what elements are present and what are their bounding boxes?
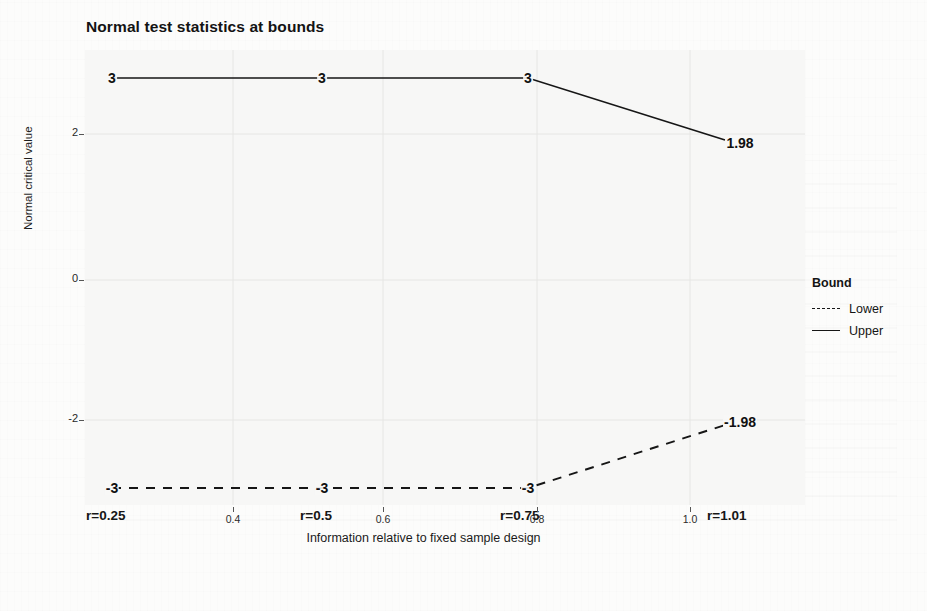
x-point-label-3: r=1.01 — [707, 508, 746, 523]
chart-title: Normal test statistics at bounds — [86, 18, 324, 36]
y-axis-label: Normal critical value — [22, 126, 34, 230]
point-label-upper-3: 1.98 — [725, 136, 754, 150]
y-tick-mark-minus2 — [79, 420, 84, 421]
series-line-lower — [112, 425, 725, 488]
legend-label-lower: Lower — [849, 302, 883, 316]
x-tick-mark-0 — [233, 507, 234, 512]
x-tick-1: 0.6 — [376, 513, 391, 525]
x-point-label-1: r=0.5 — [300, 508, 332, 523]
point-label-upper-1: 3 — [317, 71, 327, 85]
x-tick-3: 1.0 — [683, 513, 698, 525]
x-tick-0: 0.4 — [226, 513, 241, 525]
chart-page: Normal test statistics at bounds Normal … — [0, 0, 927, 611]
y-tick-mark-0 — [79, 280, 84, 281]
point-label-upper-2: 3 — [523, 71, 533, 85]
plot-panel: 3 3 3 1.98 -3 -3 -3 -1.98 — [85, 50, 805, 505]
x-tick-2: 0.8 — [530, 513, 545, 525]
legend-label-upper: Upper — [849, 324, 883, 338]
point-label-lower-0: -3 — [105, 481, 119, 495]
point-label-lower-3: -1.98 — [723, 415, 757, 429]
legend-item-upper[interactable]: Upper — [812, 321, 922, 340]
legend-swatch-dashed-line-icon — [812, 303, 840, 315]
legend-swatch-solid-line-icon — [812, 325, 840, 337]
x-tick-mark-1 — [383, 507, 384, 512]
plot-svg — [85, 50, 805, 505]
grid-lines — [85, 50, 805, 505]
legend-title: Bound — [812, 276, 922, 290]
x-tick-mark-3 — [690, 507, 691, 512]
x-point-label-0: r=0.25 — [86, 508, 125, 523]
legend: Bound Lower Upper — [812, 276, 922, 343]
series-line-upper — [112, 78, 725, 140]
point-label-lower-2: -3 — [521, 481, 535, 495]
x-tick-mark-2 — [537, 507, 538, 512]
y-tick-mark-2 — [79, 134, 84, 135]
point-label-lower-1: -3 — [315, 481, 329, 495]
legend-item-lower[interactable]: Lower — [812, 299, 922, 318]
x-axis-label: Information relative to fixed sample des… — [306, 531, 540, 545]
x-axis-label-wrap: Information relative to fixed sample des… — [0, 531, 927, 545]
point-label-upper-0: 3 — [107, 71, 117, 85]
